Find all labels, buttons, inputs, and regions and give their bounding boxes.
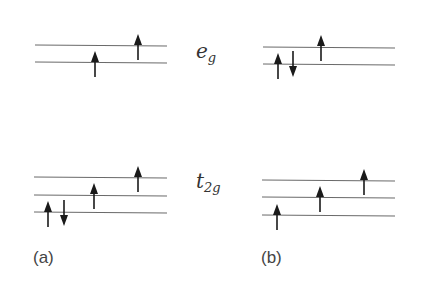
spin-down-arrow-icon (60, 200, 68, 226)
panel-a-t2g-level-bottom (34, 212, 167, 213)
panel-a-eg-level-upper (35, 45, 167, 46)
orbital-diagram: eg t2g (a) (b) (0, 0, 423, 282)
spin-up-arrow-icon (273, 204, 281, 230)
panel-b-t2g-group (262, 169, 395, 230)
panel-a-t2g-level-middle (34, 195, 167, 196)
panel-a-t2g-level-top (34, 177, 167, 178)
panel-b-t2g-level-top (262, 180, 395, 181)
spin-up-arrow-icon (134, 34, 142, 60)
t2g-label: t2g (196, 169, 221, 195)
panel-b-label: (b) (261, 248, 282, 267)
spin-up-arrow-icon (316, 186, 324, 212)
panel-a-t2g-group (34, 166, 167, 227)
panel-a-label: (a) (33, 248, 54, 267)
spin-up-arrow-icon (134, 166, 142, 192)
panel-b-t2g-level-bottom (262, 215, 395, 216)
panel-a-eg-group (35, 34, 167, 77)
spin-up-arrow-icon (274, 53, 282, 79)
spin-up-arrow-icon (91, 51, 99, 77)
spin-up-arrow-icon (360, 169, 368, 195)
eg-label: eg (196, 39, 216, 65)
panel-b-eg-level-lower (263, 64, 395, 65)
panel-b-t2g-level-middle (262, 197, 395, 198)
spin-up-arrow-icon (44, 201, 52, 227)
panel-b-eg-level-upper (263, 47, 395, 48)
panel-b-eg-group (263, 35, 395, 79)
panel-a-eg-level-lower (35, 62, 167, 63)
